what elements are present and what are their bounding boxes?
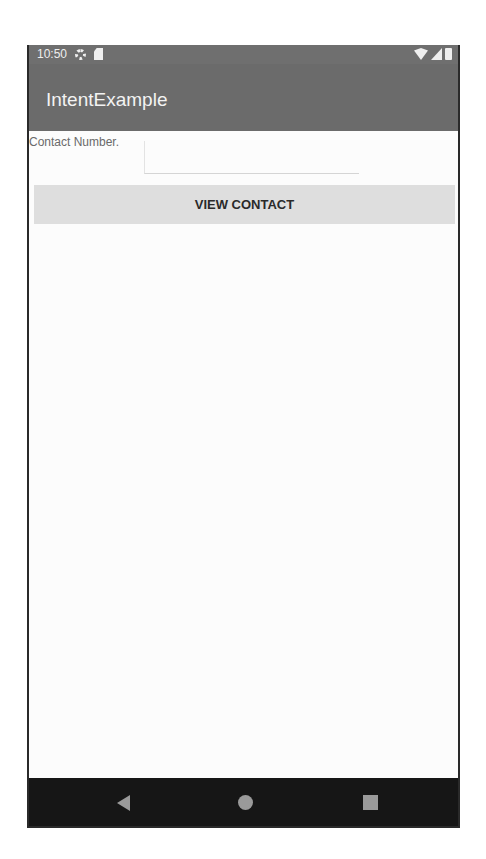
contact-number-label: Contact Number. [29, 135, 119, 149]
phone-screen: 10:50 IntentExample Contact Number. VIEW… [27, 45, 460, 828]
sdcard-icon [94, 48, 103, 60]
signal-icon [431, 48, 442, 60]
status-right-icons [414, 48, 452, 60]
navigation-bar [29, 778, 458, 826]
status-bar: 10:50 [29, 45, 458, 64]
wifi-icon [414, 48, 428, 60]
recents-icon[interactable] [363, 795, 378, 810]
app-bar: IntentExample [29, 64, 458, 131]
home-icon[interactable] [238, 795, 253, 810]
content-area: Contact Number. VIEW CONTACT [29, 131, 458, 780]
app-title: IntentExample [46, 89, 167, 111]
back-icon[interactable] [117, 795, 130, 811]
view-contact-button[interactable]: VIEW CONTACT [34, 185, 455, 224]
status-time: 10:50 [37, 47, 67, 61]
battery-icon [445, 48, 452, 60]
contact-number-input[interactable] [144, 141, 359, 174]
status-left-icons [75, 48, 103, 60]
gear-icon [75, 49, 86, 60]
